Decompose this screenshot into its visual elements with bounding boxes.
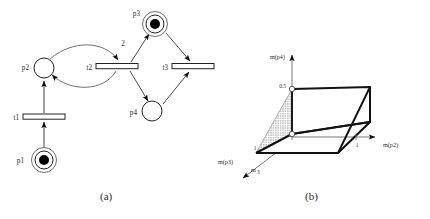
origin-label: m 3 <box>251 166 260 175</box>
transition-t1-label: t1 <box>13 114 19 122</box>
place-p4[interactable] <box>142 101 162 121</box>
arc-p4-t3 <box>163 72 189 104</box>
tick-label-mp3-1: 1 <box>254 145 257 151</box>
transition-t2[interactable] <box>96 64 138 69</box>
tick-label-mp4-05: 0.5 <box>279 83 286 89</box>
place-p3-label: p3 <box>133 10 141 18</box>
axis-label-mp4: m(p4) <box>270 53 285 61</box>
vertex-marker-lower <box>289 131 294 136</box>
caption-b: (b) <box>305 190 318 202</box>
panel-polytope: m(p4) m(p2) m(p3) m 3 0.5 1 1 <box>215 0 430 219</box>
place-p4-circle <box>142 101 162 121</box>
place-p2[interactable] <box>34 58 54 78</box>
polytope-svg: m(p4) m(p2) m(p3) m 3 0.5 1 1 <box>215 0 430 190</box>
origin-label-base: m <box>251 166 256 173</box>
place-p3-token <box>150 19 160 29</box>
transition-t2-label: t2 <box>86 64 92 72</box>
place-p4-label: p4 <box>130 109 138 117</box>
axis-label-mp3: m(p3) <box>218 158 233 166</box>
caption-a: (a) <box>100 190 112 202</box>
arc-weight-label: 2 <box>121 40 125 48</box>
arc-p3-t3 <box>166 33 190 61</box>
transition-t1[interactable] <box>23 114 65 119</box>
figure-root: p1 p2 p3 p4 t1 t2 <box>0 0 430 219</box>
vertex-marker-upper <box>289 86 294 91</box>
arc-t2-p4 <box>130 71 148 101</box>
axis-mp3 <box>243 152 277 178</box>
place-p1[interactable] <box>32 148 57 173</box>
transition-t3[interactable] <box>172 64 214 69</box>
origin-label-subscript: 3 <box>257 169 260 175</box>
arc-t2-p2-lower <box>52 71 116 87</box>
arc-t2-p3 <box>131 34 149 62</box>
panel-petri-net: p1 p2 p3 p4 t1 t2 <box>0 0 215 219</box>
polytope-edge-right-slant <box>338 87 370 153</box>
place-p1-token <box>39 155 49 165</box>
place-p1-label: p1 <box>17 157 25 165</box>
place-p2-label: p2 <box>22 64 30 72</box>
tick-label-mp2-1: 1 <box>356 142 359 148</box>
axis-label-mp2: m(p2) <box>383 141 398 149</box>
place-p2-circle <box>34 58 54 78</box>
place-p3[interactable] <box>143 12 168 37</box>
petri-net-svg: p1 p2 p3 p4 t1 t2 <box>0 0 215 190</box>
transition-t3-label: t3 <box>162 64 168 72</box>
arc-p2-t2-upper <box>50 45 118 60</box>
